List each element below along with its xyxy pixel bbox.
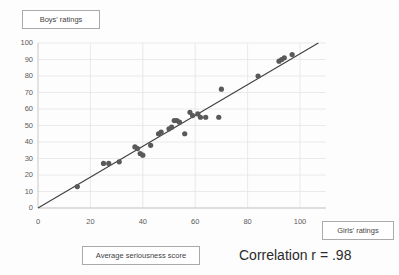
y-axis-label-text: Boys' ratings <box>40 16 83 24</box>
scatterplot-figure: 0102030405060708090100020406080100 Boys'… <box>0 0 399 275</box>
y-tick-label: 30 <box>11 155 33 163</box>
y-tick-label: 10 <box>11 188 33 196</box>
x-tick-label: 20 <box>78 218 102 226</box>
data-point <box>75 184 80 189</box>
x-tick-label: 0 <box>26 218 50 226</box>
data-point <box>182 131 187 136</box>
y-tick-label: 40 <box>11 138 33 146</box>
data-point <box>169 125 174 130</box>
gridlines-horizontal <box>38 43 326 208</box>
x-tick-label: 40 <box>131 218 155 226</box>
y-tick-label: 90 <box>11 56 33 64</box>
data-point <box>148 143 153 148</box>
data-point <box>106 161 111 166</box>
data-point <box>282 55 287 60</box>
y-tick-label: 80 <box>11 72 33 80</box>
y-tick-label: 50 <box>11 122 33 130</box>
data-point <box>177 120 182 125</box>
y-tick-label: 60 <box>11 105 33 113</box>
y-tick-label: 20 <box>11 171 33 179</box>
data-point <box>255 73 260 78</box>
series-label-text: Girls' ratings <box>337 227 378 235</box>
y-tick-label: 0 <box>11 204 33 212</box>
x-tick-label: 80 <box>236 218 260 226</box>
data-point <box>203 115 208 120</box>
data-points <box>75 52 295 189</box>
y-tick-label: 70 <box>11 89 33 97</box>
data-point <box>101 161 106 166</box>
y-tick-label: 100 <box>11 39 33 47</box>
x-tick-label: 100 <box>288 218 312 226</box>
x-axis-label-text: Average seriousness score <box>96 252 186 260</box>
correlation-annotation: Correlation r = .98 <box>239 248 351 262</box>
data-point <box>198 115 203 120</box>
data-point <box>290 52 295 57</box>
y-axis-label-box: Boys' ratings <box>22 10 100 29</box>
data-point <box>135 146 140 151</box>
data-point <box>219 87 224 92</box>
data-point <box>216 115 221 120</box>
data-point <box>140 153 145 158</box>
data-point <box>117 159 122 164</box>
x-axis-label-box: Average seriousness score <box>82 246 200 265</box>
data-point <box>159 130 164 135</box>
x-tick-label: 60 <box>183 218 207 226</box>
series-label-box: Girls' ratings <box>322 221 394 240</box>
data-point <box>190 113 195 118</box>
